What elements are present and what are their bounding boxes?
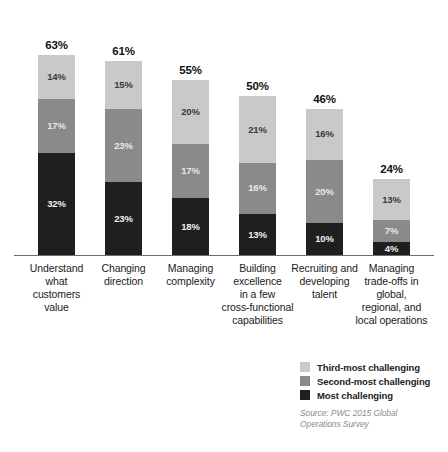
legend-swatch-mid (300, 376, 310, 386)
bar-3-total-label: 55% (179, 64, 201, 76)
bar-5-segment-dark[interactable]: 10% (306, 223, 343, 255)
segment-value-label: 16% (315, 129, 333, 139)
bar-1[interactable]: 14%17%32% (38, 55, 75, 255)
bar-1-segment-mid[interactable]: 17% (38, 99, 75, 153)
legend-label: Third-most challenging (317, 362, 420, 373)
segment-value-label: 14% (47, 72, 65, 82)
segment-value-label: 32% (47, 199, 65, 209)
category-label-line: value (14, 301, 100, 314)
bar-6-segment-light[interactable]: 13% (373, 179, 410, 220)
bar-3-segment-mid[interactable]: 17% (172, 144, 209, 198)
bar-6-total-label: 24% (380, 163, 402, 175)
bar-3-segment-light[interactable]: 20% (172, 80, 209, 144)
category-label-line: regional, and (349, 301, 435, 314)
legend-label: Second-most challenging (317, 376, 430, 387)
category-label-line: cross-functional (215, 301, 301, 314)
bar-4[interactable]: 21%16%13% (239, 96, 276, 255)
bar-3-segment-dark[interactable]: 18% (172, 198, 209, 255)
bar-3[interactable]: 20%17%18% (172, 80, 209, 255)
legend-item-dark[interactable]: Most challenging (300, 389, 430, 401)
bar-5[interactable]: 16%20%10% (306, 109, 343, 255)
bar-4-total-label: 50% (246, 80, 268, 92)
category-labels: UnderstandwhatcustomersvalueChangingdire… (0, 262, 448, 357)
segment-value-label: 23% (114, 141, 132, 151)
source-line-2: Operations Survey (300, 419, 440, 430)
category-label-line: trade-offs in (349, 275, 435, 288)
bar-2-segment-mid[interactable]: 23% (105, 109, 142, 182)
segment-value-label: 17% (47, 121, 65, 131)
segment-value-label: 20% (181, 107, 199, 117)
bar-2-total-label: 61% (112, 45, 134, 57)
bar-5-total-label: 46% (313, 93, 335, 105)
stacked-bar-chart: 14%17%32%63%15%23%23%61%20%17%18%55%21%1… (0, 0, 448, 452)
segment-value-label: 10% (315, 234, 333, 244)
category-label-line: capabilities (215, 314, 301, 327)
legend-item-mid[interactable]: Second-most challenging (300, 375, 430, 387)
bar-6-segment-dark[interactable]: 4% (373, 242, 410, 255)
segment-value-label: 21% (248, 125, 266, 135)
bar-2-segment-light[interactable]: 15% (105, 61, 142, 109)
bar-4-segment-light[interactable]: 21% (239, 96, 276, 163)
bar-1-segment-dark[interactable]: 32% (38, 153, 75, 255)
segment-value-label: 7% (385, 226, 398, 236)
bar-4-segment-dark[interactable]: 13% (239, 214, 276, 255)
category-label-line: local operations (349, 314, 435, 327)
source-line-1: Source: PWC 2015 Global (300, 408, 440, 419)
bar-1-segment-light[interactable]: 14% (38, 55, 75, 100)
segment-value-label: 23% (114, 214, 132, 224)
category-label-line: customers (14, 288, 100, 301)
category-label-6: Managingtrade-offs inglobal,regional, an… (349, 262, 435, 327)
bar-5-segment-light[interactable]: 16% (306, 109, 343, 160)
bar-1-total-label: 63% (45, 39, 67, 51)
bar-2[interactable]: 15%23%23% (105, 61, 142, 255)
category-label-line: global, (349, 288, 435, 301)
segment-value-label: 13% (382, 195, 400, 205)
bar-2-segment-dark[interactable]: 23% (105, 182, 142, 255)
legend-swatch-light (300, 362, 310, 372)
bar-6[interactable]: 13%7%4% (373, 179, 410, 255)
segment-value-label: 4% (385, 244, 398, 254)
x-axis-line (14, 255, 434, 256)
plot-area: 14%17%32%63%15%23%23%61%20%17%18%55%21%1… (0, 0, 448, 256)
chart-legend: Third-most challengingSecond-most challe… (300, 361, 430, 403)
category-label-line: Managing (349, 262, 435, 275)
bar-5-segment-mid[interactable]: 20% (306, 160, 343, 224)
legend-item-light[interactable]: Third-most challenging (300, 361, 430, 373)
bar-4-segment-mid[interactable]: 16% (239, 163, 276, 214)
bar-6-segment-mid[interactable]: 7% (373, 220, 410, 242)
source-note: Source: PWC 2015 Global Operations Surve… (300, 408, 440, 430)
legend-swatch-dark (300, 390, 310, 400)
segment-value-label: 20% (315, 187, 333, 197)
segment-value-label: 17% (181, 166, 199, 176)
segment-value-label: 18% (181, 222, 199, 232)
legend-label: Most challenging (317, 390, 393, 401)
segment-value-label: 15% (114, 80, 132, 90)
segment-value-label: 13% (248, 230, 266, 240)
segment-value-label: 16% (248, 183, 266, 193)
